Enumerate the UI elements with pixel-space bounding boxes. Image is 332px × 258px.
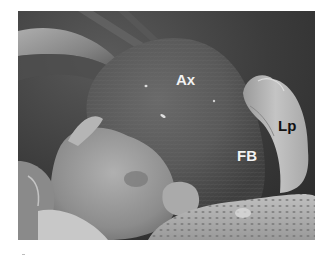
sem-micrograph: Ax FB Lp (18, 11, 315, 240)
label-fb: FB (237, 148, 257, 163)
micrograph-image (18, 11, 315, 240)
label-ax: Ax (176, 72, 195, 87)
stray-mark (22, 254, 25, 255)
label-lp: Lp (278, 118, 296, 133)
